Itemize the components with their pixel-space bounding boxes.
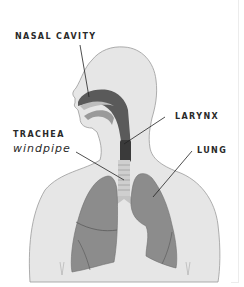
page-edge	[238, 0, 239, 282]
page-edge-corner	[231, 282, 239, 283]
label-lung: LUNG	[197, 146, 227, 155]
label-trachea: TRACHEA	[13, 130, 65, 139]
respiratory-diagram: NASAL CAVITY LARYNX TRACHEA windpipe LUN…	[0, 0, 244, 287]
label-larynx: LARYNX	[175, 112, 219, 121]
label-windpipe: windpipe	[13, 142, 71, 155]
label-nasal-cavity: NASAL CAVITY	[15, 32, 96, 41]
